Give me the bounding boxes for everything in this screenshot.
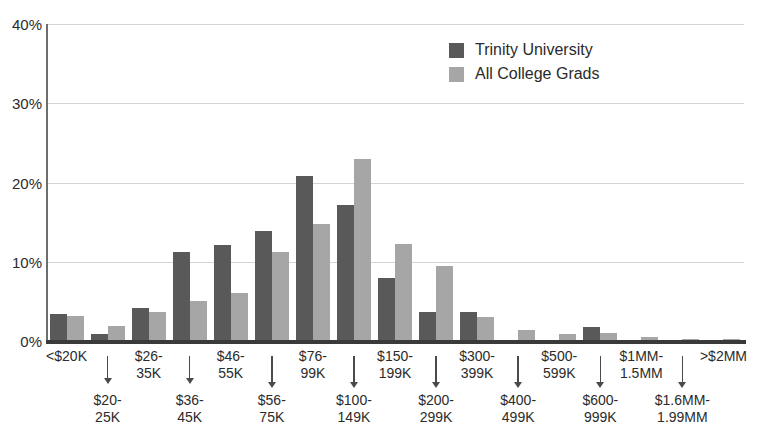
x-axis-label-line: $100- [317,392,391,409]
x-axis-category-label: $56-75K [235,392,309,426]
x-axis-category-label: $26-35K [112,348,186,382]
x-axis-label-line: $300- [440,348,514,365]
x-axis-category-label: <$20K [30,348,104,365]
bar [214,245,231,341]
x-axis-category-label: $20-25K [71,392,145,426]
y-axis-line [46,24,48,342]
bar-group [251,24,292,341]
bar-group [333,24,374,341]
x-axis-label-line: 599K [522,365,596,382]
bar-group [46,24,87,341]
bar [108,326,125,341]
bar-group [292,24,333,341]
arrow-shaft [600,356,602,382]
x-axis-label-line: $36- [153,392,227,409]
x-axis-label-line: $150- [358,348,432,365]
x-axis-category-labels: <$20K$20-25K$26-35K$36-45K$46-55K$56-75K… [46,346,746,439]
bar [50,314,67,341]
x-axis-label-line: $200- [399,392,473,409]
x-axis-category-label: $36-45K [153,392,227,426]
x-axis-category-label: $300-399K [440,348,514,382]
x-axis-label-line: 399K [440,365,514,382]
arrow-shaft [353,356,355,382]
bar [255,231,272,341]
arrow-shaft [682,356,684,382]
x-axis-category-label: $400-499K [481,392,555,426]
bar [149,312,166,341]
arrow-shaft [435,356,437,382]
x-axis-category-label: $150-199K [358,348,432,382]
x-axis-category-label: $1.6MM-1.99MM [645,392,719,426]
bar [378,278,395,341]
arrow-shaft [189,356,191,378]
bar [419,312,436,341]
bar-group [128,24,169,341]
x-axis-label-line: 55K [194,365,268,382]
arrow-shaft [517,356,519,382]
bar [354,159,371,341]
bar [67,316,84,341]
y-axis-tick-label: 40% [0,17,42,32]
x-axis-label-line: 45K [153,409,227,426]
x-axis-label-line: $76- [276,348,350,365]
arrow-head [268,382,276,388]
x-axis-label-line: 499K [481,409,555,426]
bar-group [703,24,744,341]
legend-label: Trinity University [475,42,593,58]
bar [477,317,494,341]
x-axis-label-line: $1MM- [604,348,678,365]
bar [296,176,313,341]
bar [313,224,330,341]
x-axis-label-line: $400- [481,392,555,409]
bar-group [662,24,703,341]
arrow-shaft [271,356,273,382]
x-axis-category-label: $100-149K [317,392,391,426]
bar-group [210,24,251,341]
x-axis-category-label: >$2MM [686,348,758,365]
arrow-head [432,382,440,388]
x-axis-category-label: $500-599K [522,348,596,382]
legend-label: All College Grads [475,66,600,82]
bar [272,252,289,341]
legend-item-all-college-grads: All College Grads [449,62,600,86]
x-axis-label-line: >$2MM [686,348,758,365]
bar [173,252,190,341]
arrow-head [104,378,112,384]
bar-group [169,24,210,341]
bar-group [621,24,662,341]
x-axis-category-label: $1MM-1.5MM [604,348,678,382]
legend-swatch-icon [449,67,464,82]
bar [190,301,207,341]
x-axis-category-label: $200-299K [399,392,473,426]
bar [231,293,248,341]
arrow-head [186,378,194,384]
y-axis-tick-label: 20% [0,176,42,191]
bar [436,266,453,341]
x-axis-label-line: $1.6MM- [645,392,719,409]
bar [583,327,600,341]
arrow-head [514,382,522,388]
bar [460,312,477,341]
bar-group [374,24,415,341]
legend-swatch-icon [449,43,464,58]
income-distribution-bar-chart: 0%10%20%30%40% Trinity University All Co… [0,0,758,439]
arrow-shaft [107,356,109,378]
x-axis-label-line: 1.99MM [645,409,719,426]
x-axis-label-line: $26- [112,348,186,365]
x-axis-label-line: $500- [522,348,596,365]
y-axis-tick-label: 10% [0,255,42,270]
x-axis-label-line: 1.5MM [604,365,678,382]
legend-item-trinity-university: Trinity University [449,38,600,62]
arrow-head [678,382,686,388]
x-axis-label-line: $56- [235,392,309,409]
x-axis-category-label: $600-999K [563,392,637,426]
x-axis-label-line: <$20K [30,348,104,365]
arrow-head [596,382,604,388]
arrow-head [350,382,358,388]
bar [395,244,412,341]
x-axis-label-line: $20- [71,392,145,409]
x-axis-label-line: 199K [358,365,432,382]
x-axis-label-line: 25K [71,409,145,426]
x-axis-label-line: 999K [563,409,637,426]
bar [337,205,354,341]
